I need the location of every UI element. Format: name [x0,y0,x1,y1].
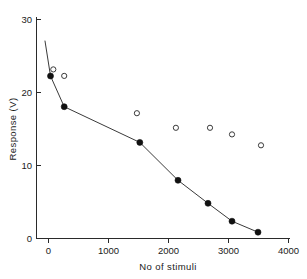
y-tick-label-20: 20 [21,87,32,98]
data-point-open [134,111,139,116]
open-markers-group [51,67,264,148]
data-point-filled [137,139,143,145]
data-point-open [173,125,178,130]
data-point-open [51,67,56,72]
filled-markers-group [48,73,262,235]
data-point-filled [255,229,261,235]
y-axis-title: Response (V) [7,98,18,161]
x-axis-title: No of stimuli [139,261,196,272]
y-tick-label-30: 30 [21,14,32,25]
y-tick-label-10: 10 [21,160,32,171]
data-point-filled [48,73,54,79]
x-axis-ticks: 0 1000 2000 3000 4000 [46,239,299,257]
x-tick-label-3000: 3000 [218,245,239,256]
filled-series-line [45,41,258,232]
y-tick-label-0: 0 [27,233,32,244]
data-point-filled [205,200,211,206]
x-tick-label-1000: 1000 [98,245,119,256]
data-point-open [62,73,67,78]
scatter-plot-canvas: 30 20 10 0 0 1000 2000 3000 4000 No of s… [0,0,307,279]
data-point-open [258,143,263,148]
data-point-filled [229,218,235,224]
x-tick-label-2000: 2000 [158,245,179,256]
axes-group [37,17,291,239]
data-point-open [207,125,212,130]
data-point-filled [61,104,67,110]
data-point-filled [175,177,181,183]
x-tick-label-4000: 4000 [278,245,299,256]
data-point-open [229,132,234,137]
chart-figure: 30 20 10 0 0 1000 2000 3000 4000 No of s… [0,0,307,279]
x-tick-label-0: 0 [46,245,51,256]
y-axis-ticks: 30 20 10 0 [21,14,41,244]
